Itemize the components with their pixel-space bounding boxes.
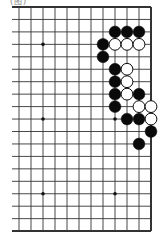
black-stone[interactable] [109, 76, 121, 88]
black-stone[interactable] [109, 88, 121, 100]
black-stone[interactable] [133, 26, 145, 38]
black-stone[interactable] [121, 113, 133, 125]
star-point [41, 192, 45, 196]
white-stone[interactable] [121, 76, 133, 88]
white-stone[interactable] [109, 38, 121, 50]
black-stone[interactable] [133, 88, 145, 100]
white-stone[interactable] [121, 38, 133, 50]
star-point [113, 117, 117, 121]
black-stone[interactable] [109, 63, 121, 75]
white-stone[interactable] [133, 101, 145, 113]
white-stone[interactable] [145, 113, 157, 125]
star-point [41, 117, 45, 121]
black-stone[interactable] [133, 138, 145, 150]
white-stone[interactable] [121, 88, 133, 100]
black-stone[interactable] [109, 101, 121, 113]
black-stone[interactable] [145, 126, 157, 138]
white-stone[interactable] [133, 38, 145, 50]
black-stone[interactable] [109, 26, 121, 38]
black-stone[interactable] [133, 113, 145, 125]
black-stone[interactable] [121, 26, 133, 38]
star-point [113, 192, 117, 196]
go-board[interactable] [0, 0, 162, 235]
black-stone[interactable] [97, 38, 109, 50]
white-stone[interactable] [145, 101, 157, 113]
white-stone[interactable] [121, 63, 133, 75]
star-point [41, 43, 45, 47]
black-stone[interactable] [97, 51, 109, 63]
